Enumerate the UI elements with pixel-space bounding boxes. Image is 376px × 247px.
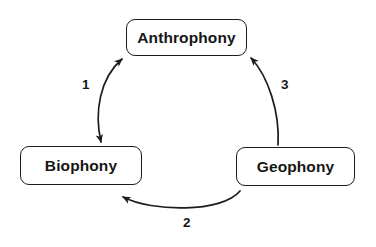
node-geophony[interactable]: Geophony <box>236 147 355 186</box>
edge-arrow-1 <box>98 59 122 142</box>
edge-label-1: 1 <box>82 77 90 92</box>
node-geophony-label: Geophony <box>257 158 334 176</box>
node-anthrophony[interactable]: Anthrophony <box>126 19 247 56</box>
edge-label-3: 3 <box>281 77 289 92</box>
node-anthrophony-label: Anthrophony <box>137 29 235 47</box>
edge-label-2: 2 <box>183 215 191 230</box>
edge-arrow-2 <box>123 191 240 208</box>
node-biophony[interactable]: Biophony <box>20 146 142 185</box>
soundscape-cycle-diagram: Anthrophony Biophony Geophony 1 2 3 <box>0 0 376 247</box>
node-biophony-label: Biophony <box>45 157 117 175</box>
edge-arrow-3 <box>251 58 278 145</box>
